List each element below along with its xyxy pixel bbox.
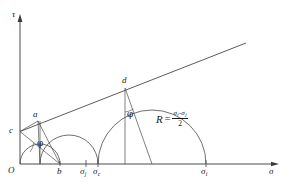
axes-group (18, 14, 279, 166)
point-label-a: a (33, 110, 38, 119)
formula-equals-sign: = (165, 113, 171, 124)
angle-arcs-group (30, 109, 134, 152)
sigma-c-subscript: c (98, 171, 101, 177)
large-mohr-circle (98, 110, 206, 164)
point-label-c: c (9, 126, 13, 135)
radius-formula: R = σi-σj 2 (156, 110, 188, 128)
chord-d-to-foot (125, 88, 152, 164)
sigma-j-subscript: j (85, 171, 87, 177)
formula-denominator: 2 (178, 119, 182, 128)
formula-fraction: σi-σj 2 (172, 110, 187, 128)
tick-label-sigma-i: σi (201, 167, 207, 177)
phi-arc-small (30, 143, 34, 152)
point-label-b: b (57, 167, 62, 176)
sigma-axis-label: σ (269, 167, 273, 176)
point-label-d: d (122, 76, 127, 85)
phi-angle-label-large: φ (127, 110, 133, 119)
medium-mohr-circle (40, 135, 98, 164)
large-circle-construction (125, 88, 152, 164)
sigma-i-subscript: i (206, 171, 208, 177)
phi-angle-label-small: φ (37, 139, 43, 148)
sigma-j-symbol: σ (80, 166, 84, 176)
tau-axis-arrow (18, 14, 23, 22)
sigma-c-symbol: σ (93, 166, 97, 176)
sigma-i-symbol: σ (201, 166, 205, 176)
origin-label: O (8, 166, 15, 175)
tick-label-sigma-j: σj (80, 167, 86, 177)
formula-num-sub-2: j (185, 112, 187, 117)
mohr-diagram-canvas (0, 0, 289, 188)
formula-numerator: σi-σj (172, 110, 187, 118)
chord-c-to-a (20, 121, 38, 132)
tau-axis-label: τ (12, 10, 15, 19)
tick-label-sigma-c: σc (93, 167, 100, 177)
mohr-circle-figure: τ σ O c a b d φ φ σj σc σi R = σi-σj 2 (0, 0, 289, 188)
formula-lhs-R: R (156, 113, 163, 125)
